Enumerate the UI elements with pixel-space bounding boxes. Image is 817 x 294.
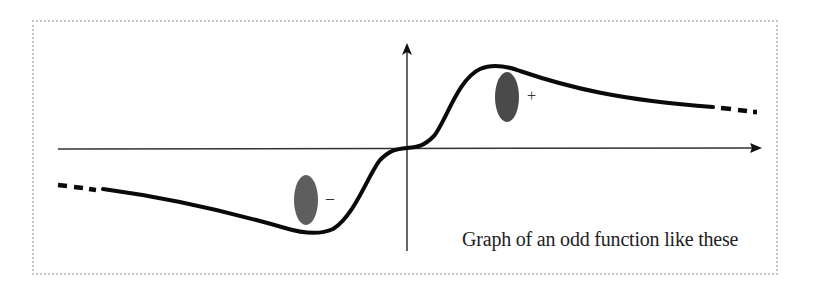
negative-region-marker (294, 175, 318, 225)
positive-region-marker (495, 72, 519, 122)
negative-sign: – (326, 190, 334, 206)
positive-sign: + (527, 88, 536, 104)
figure-caption: Graph of an odd function like these (462, 228, 738, 251)
curve-dashed-left (58, 185, 96, 190)
curve-dashed-right (721, 108, 757, 112)
